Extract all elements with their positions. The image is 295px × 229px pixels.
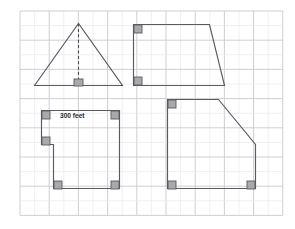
worksheet-canvas: 300 feet — [0, 0, 295, 229]
right-angle-marker — [42, 137, 50, 145]
right-angle-marker — [54, 181, 62, 189]
right-angle-marker — [134, 25, 142, 33]
shapes-layer — [35, 24, 256, 190]
right-angle-marker — [168, 181, 176, 189]
length-label-300-feet: 300 feet — [60, 112, 85, 119]
right-angle-marker — [111, 111, 119, 119]
right-angle-marker — [134, 77, 142, 85]
right-angle-marker — [247, 181, 255, 189]
right-angle-marker — [74, 79, 83, 86]
right-angle-marker — [42, 111, 50, 119]
geometry-figure-svg: 300 feet — [0, 0, 295, 229]
right-angle-marker — [168, 100, 176, 108]
right-angle-marker — [111, 181, 119, 189]
